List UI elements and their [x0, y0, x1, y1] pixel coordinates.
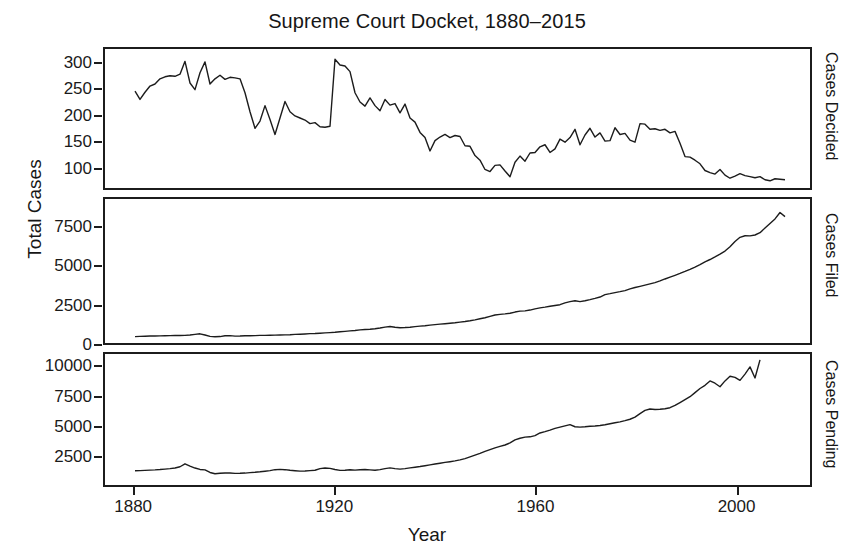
- y-axis-tick-label: 100: [64, 159, 92, 179]
- x-axis-tick-mark: [334, 487, 336, 495]
- y-axis-tick-mark: [94, 365, 102, 367]
- y-axis-tick-mark: [94, 305, 102, 307]
- y-axis-tick-mark: [94, 265, 102, 267]
- y-axis-tick-mark: [94, 115, 102, 117]
- line-series-cases-decided: [105, 49, 810, 188]
- y-axis-tick-mark: [94, 168, 102, 170]
- y-axis-tick-label: 2500: [54, 447, 92, 467]
- y-axis-tick-label: 5000: [54, 417, 92, 437]
- y-axis-tick-mark: [94, 396, 102, 398]
- y-axis-tick-mark: [94, 426, 102, 428]
- chart-figure: Supreme Court Docket, 1880–2015 10015020…: [0, 0, 854, 558]
- x-axis-tick-mark: [535, 487, 537, 495]
- y-axis-tick-label: 150: [64, 132, 92, 152]
- y-axis-tick-mark: [94, 62, 102, 64]
- y-axis-tick-label: 0: [83, 335, 92, 355]
- panel-label-cases-decided: Cases Decided: [822, 52, 840, 161]
- x-axis-tick-mark: [133, 487, 135, 495]
- line-series-cases-filed: [105, 199, 810, 343]
- x-axis-tick-label: 1960: [517, 497, 555, 517]
- y-axis-tick-label: 200: [64, 106, 92, 126]
- chart-title: Supreme Court Docket, 1880–2015: [0, 10, 854, 33]
- y-axis-tick-label: 2500: [54, 296, 92, 316]
- panel-cases-pending: [103, 352, 812, 487]
- y-axis-tick-label: 7500: [54, 217, 92, 237]
- y-axis-tick-mark: [94, 456, 102, 458]
- x-axis-tick-label: 1920: [315, 497, 353, 517]
- y-axis-label: Total Cases: [24, 114, 46, 304]
- panel-cases-filed: [103, 197, 812, 345]
- y-axis-tick-label: 250: [64, 79, 92, 99]
- x-axis-tick-mark: [737, 487, 739, 495]
- y-axis-tick-mark: [94, 226, 102, 228]
- y-axis-tick-mark: [94, 88, 102, 90]
- panel-cases-decided: [103, 47, 812, 190]
- panel-label-cases-filed: Cases Filed: [822, 213, 840, 297]
- y-axis-tick-label: 10000: [45, 356, 92, 376]
- y-axis-tick-label: 300: [64, 53, 92, 73]
- y-axis-tick-mark: [94, 141, 102, 143]
- x-axis-tick-label: 2000: [718, 497, 756, 517]
- panel-label-cases-pending: Cases Pending: [822, 360, 840, 469]
- x-axis-tick-label: 1880: [114, 497, 152, 517]
- y-axis-tick-label: 7500: [54, 387, 92, 407]
- y-axis-tick-label: 5000: [54, 256, 92, 276]
- line-series-cases-pending: [105, 354, 810, 485]
- x-axis-label: Year: [0, 524, 854, 546]
- y-axis-tick-mark: [94, 344, 102, 346]
